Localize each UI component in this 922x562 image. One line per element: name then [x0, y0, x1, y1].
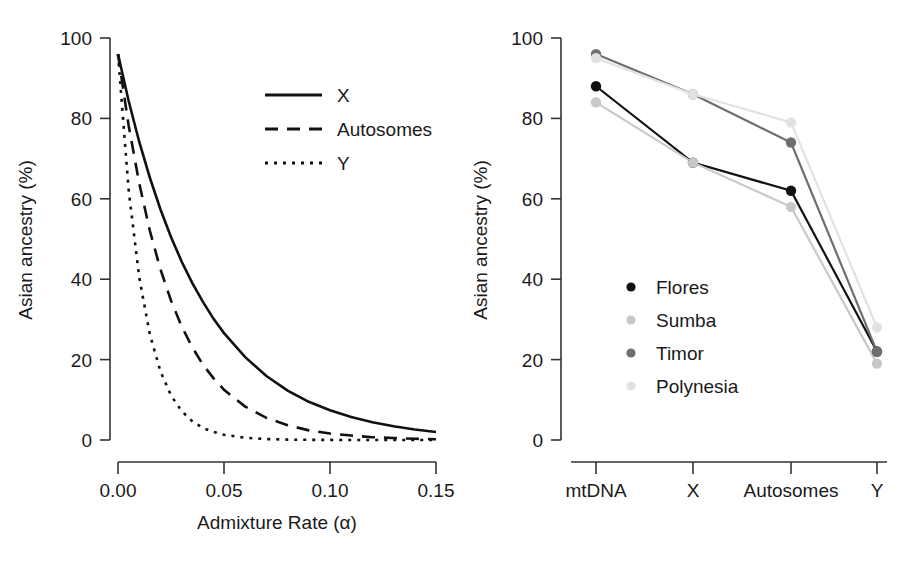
left-y-tick-label: 100 [60, 28, 92, 49]
left-y-tick-label: 20 [71, 350, 92, 371]
right-y-axis-title: Asian ancestry (%) [470, 160, 491, 319]
left-y-axis-title: Asian ancestry (%) [15, 160, 36, 319]
right-y-tick-label: 20 [522, 350, 543, 371]
right-x-tick-label: Autosomes [743, 480, 838, 501]
right-panel: 020406080100 mtDNAXAutosomesY FloresSumb… [461, 0, 922, 562]
left-x-tick-group: 0.000.050.100.15 [100, 462, 455, 501]
left-y-axis: 020406080100 [60, 28, 110, 451]
right-legend-swatch-polynesia [626, 381, 635, 390]
right-legend: FloresSumbaTimorPolynesia [626, 277, 738, 397]
right-legend-label-polynesia: Polynesia [656, 376, 739, 397]
left-legend-label-x: X [337, 85, 350, 106]
right-x-tick-group: mtDNAXAutosomesY [565, 462, 883, 501]
left-curve-x [118, 54, 436, 432]
right-point-flores-autosomes [786, 186, 796, 196]
right-y-tick-label: 0 [532, 430, 543, 451]
right-legend-swatch-timor [626, 348, 635, 357]
left-x-axis: 0.000.050.100.15 [100, 462, 455, 501]
right-point-polynesia-autosomes [786, 117, 796, 127]
right-x-tick-label: X [687, 480, 700, 501]
right-series-group [596, 54, 877, 364]
left-x-tick-label: 0.00 [100, 480, 137, 501]
right-point-sumba-x [688, 157, 698, 167]
left-y-tick-label: 40 [71, 269, 92, 290]
left-legend-label-y: Y [337, 153, 350, 174]
right-point-flores-mtdna [591, 81, 601, 91]
right-point-sumba-mtdna [591, 97, 601, 107]
right-y-tick-group: 020406080100 [511, 28, 561, 451]
right-x-tick-label: Y [871, 480, 884, 501]
left-x-axis-title: Admixture Rate (α) [197, 512, 357, 533]
left-y-tick-label: 60 [71, 189, 92, 210]
right-line-sumba [596, 102, 877, 363]
right-legend-label-sumba: Sumba [656, 310, 717, 331]
left-curve-autosomes [118, 54, 436, 439]
left-legend: XAutosomesY [265, 85, 432, 174]
left-y-tick-label: 80 [71, 108, 92, 129]
right-y-axis: 020406080100 [511, 28, 561, 451]
right-y-tick-label: 80 [522, 108, 543, 129]
right-x-axis: mtDNAXAutosomesY [565, 462, 887, 501]
right-point-sumba-y [872, 358, 882, 368]
left-legend-label-autosomes: Autosomes [337, 119, 432, 140]
right-line-timor [596, 54, 877, 351]
right-y-tick-label: 100 [511, 28, 543, 49]
left-x-tick-label: 0.05 [206, 480, 243, 501]
right-panel-plot: 020406080100 mtDNAXAutosomesY FloresSumb… [461, 0, 922, 562]
right-point-sumba-autosomes [786, 202, 796, 212]
right-line-flores [596, 86, 877, 351]
right-legend-label-flores: Flores [656, 277, 709, 298]
right-legend-swatch-sumba [626, 315, 635, 324]
left-panel-plot: 020406080100 0.000.050.100.15 XAutosomes… [0, 0, 461, 562]
right-legend-swatch-flores [626, 282, 635, 291]
right-legend-label-timor: Timor [656, 343, 705, 364]
right-point-polynesia-mtdna [591, 53, 601, 63]
right-point-timor-autosomes [786, 137, 796, 147]
right-y-tick-label: 40 [522, 269, 543, 290]
right-x-tick-label: mtDNA [565, 480, 627, 501]
left-curve-group [118, 54, 436, 440]
right-point-timor-y [872, 346, 882, 356]
right-y-tick-label: 60 [522, 189, 543, 210]
left-x-tick-label: 0.10 [312, 480, 349, 501]
left-y-tick-group: 020406080100 [60, 28, 110, 451]
right-point-polynesia-y [872, 322, 882, 332]
left-x-tick-label: 0.15 [418, 480, 455, 501]
left-panel: 020406080100 0.000.050.100.15 XAutosomes… [0, 0, 461, 562]
left-y-tick-label: 0 [81, 430, 92, 451]
right-point-polynesia-x [688, 89, 698, 99]
